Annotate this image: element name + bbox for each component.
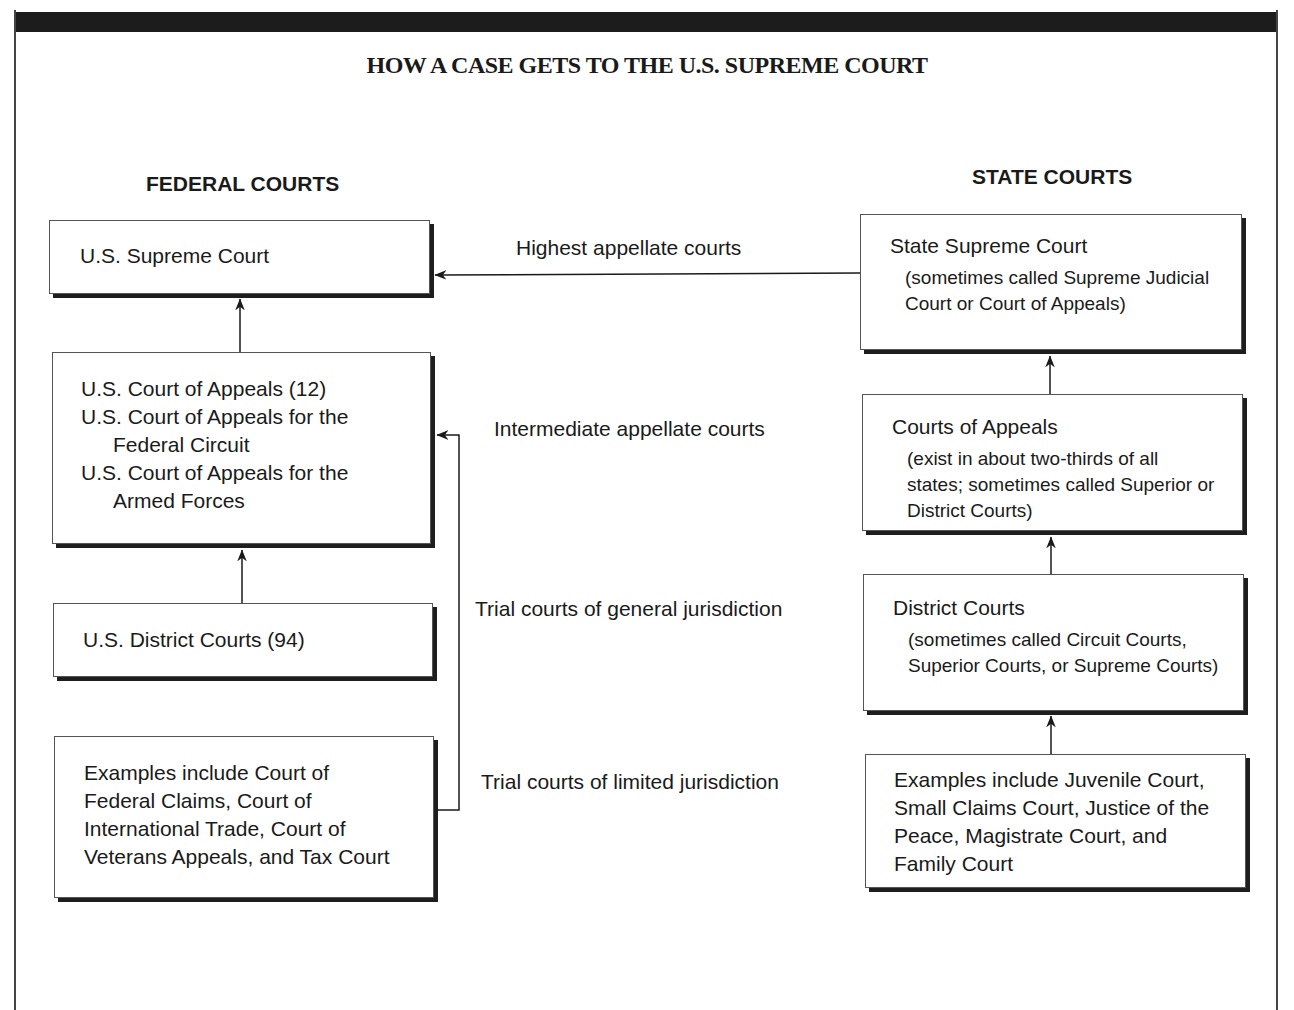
arrow-left-icon — [436, 435, 459, 810]
arrow-left-icon — [435, 273, 860, 275]
